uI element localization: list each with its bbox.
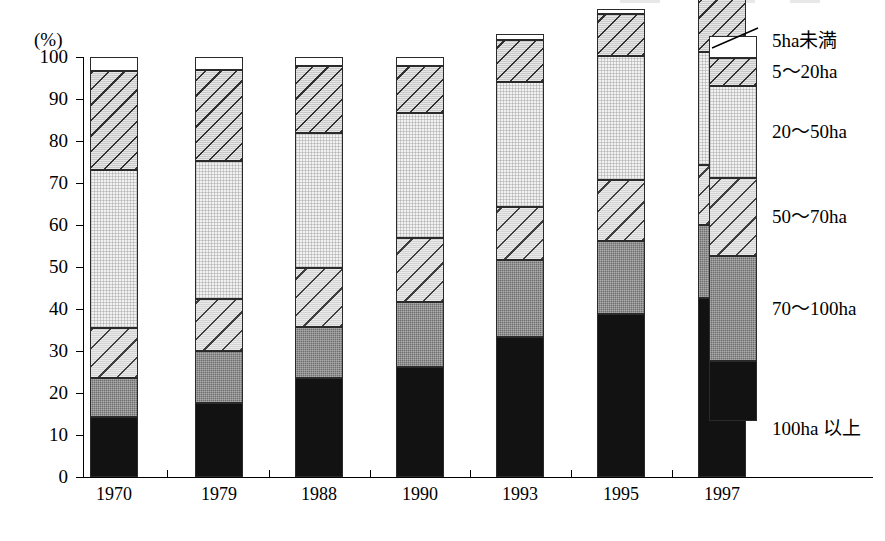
legend-swatch	[709, 361, 757, 421]
bar-segment	[597, 314, 645, 477]
scan-artifact	[620, 0, 660, 3]
bar-segment	[597, 56, 645, 180]
legend-label-3: 20～50ha	[772, 121, 847, 142]
y-tick-mark	[76, 57, 84, 58]
bar-1995	[597, 57, 645, 477]
x-tick-mark	[571, 470, 572, 478]
bar-segment	[396, 238, 444, 302]
bar-segment	[295, 66, 343, 133]
bar-segment	[195, 57, 243, 70]
bar-segment	[295, 133, 343, 268]
bar-1970	[90, 57, 138, 477]
x-tick-mark	[672, 470, 673, 478]
y-tick-mark	[76, 393, 84, 394]
y-tick-mark	[76, 435, 84, 436]
bar-segment	[496, 82, 544, 207]
x-tick-mark	[370, 470, 371, 478]
bar-segment	[90, 170, 138, 328]
x-tick-label: 1993	[480, 484, 560, 504]
y-tick-mark	[76, 351, 84, 352]
bar-segment	[396, 57, 444, 66]
bar-1993	[496, 57, 544, 477]
y-tick-label: 100	[26, 47, 68, 66]
y-tick-label: 80	[26, 131, 68, 150]
y-tick-label: 0	[26, 467, 68, 486]
x-tick-label: 1988	[279, 484, 359, 504]
bar-segment	[597, 180, 645, 241]
bar-segment	[90, 378, 138, 417]
scan-artifact	[790, 0, 820, 3]
y-tick-label: 10	[26, 425, 68, 444]
legend-swatch	[709, 256, 757, 361]
bar-segment	[295, 327, 343, 378]
bar-1979	[195, 57, 243, 477]
bar-segment	[496, 260, 544, 337]
bar-segment	[496, 40, 544, 82]
bar-segment	[90, 57, 138, 71]
bar-segment	[597, 9, 645, 14]
bar-segment	[396, 367, 444, 477]
bar-segment	[90, 417, 138, 477]
bar-segment	[496, 337, 544, 477]
x-tick-label: 1997	[682, 484, 762, 504]
y-tick-mark	[76, 99, 84, 100]
stacked-bar-chart: (%) 0102030405060708090100 1970197919881…	[0, 0, 885, 541]
y-tick-label: 20	[26, 383, 68, 402]
x-axis-line	[83, 477, 873, 478]
bar-segment	[195, 351, 243, 403]
bar-segment	[195, 299, 243, 351]
y-tick-label: 60	[26, 215, 68, 234]
bar-segment	[295, 268, 343, 327]
y-tick-label: 70	[26, 173, 68, 192]
x-tick-label: 1979	[179, 484, 259, 504]
bar-segment	[597, 14, 645, 56]
x-tick-label: 1990	[380, 484, 460, 504]
legend-label-2: 50～70ha	[772, 206, 847, 227]
x-tick-label: 1970	[74, 484, 154, 504]
bar-1990	[396, 57, 444, 477]
bar-segment	[195, 70, 243, 161]
bar-segment	[90, 71, 138, 170]
bar-segment	[496, 34, 544, 40]
legend-swatch	[709, 86, 757, 178]
y-tick-label: 30	[26, 341, 68, 360]
bar-segment	[295, 378, 343, 477]
legend-swatch	[709, 178, 757, 256]
x-tick-mark	[167, 470, 168, 478]
bar-1988	[295, 57, 343, 477]
y-tick-mark	[76, 141, 84, 142]
y-tick-label: 40	[26, 299, 68, 318]
x-tick-mark	[269, 470, 270, 478]
x-tick-label: 1995	[581, 484, 661, 504]
y-tick-mark	[76, 225, 84, 226]
y-tick-mark	[76, 267, 84, 268]
legend-label-4: 5～20ha	[772, 61, 837, 82]
bar-segment	[396, 66, 444, 113]
bar-segment	[597, 241, 645, 314]
legend-label-5: 5ha未満	[772, 30, 837, 51]
bar-segment	[195, 161, 243, 299]
legend-key-bar	[709, 36, 757, 421]
bar-segment	[396, 113, 444, 238]
bar-segment	[295, 57, 343, 66]
bar-segment	[90, 328, 138, 378]
y-tick-label: 90	[26, 89, 68, 108]
legend-label-0: 100ha 以上	[772, 418, 861, 439]
bar-segment	[195, 403, 243, 477]
y-tick-label: 50	[26, 257, 68, 276]
bar-segment	[396, 302, 444, 367]
y-tick-mark	[76, 183, 84, 184]
bar-segment	[496, 207, 544, 260]
y-tick-mark	[76, 309, 84, 310]
x-tick-mark	[470, 470, 471, 478]
legend-label-1: 70～100ha	[772, 298, 856, 319]
